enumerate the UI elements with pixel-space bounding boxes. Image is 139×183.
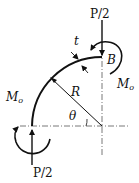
top-load-label: P/2 [90,7,110,21]
bottom-load-label: P/2 [33,166,53,180]
thickness-label: t [74,34,79,48]
left-moment-label: Mo [5,90,23,105]
radius-label: R [70,85,80,99]
angle-label: θ [69,109,77,123]
top-moment-label: Mo [116,77,134,92]
angle-arc [86,119,87,126]
quarter-ring-diagram: P/2 P/2 B t R θ Mo Mo [0,0,139,183]
point-b-label: B [106,53,116,67]
